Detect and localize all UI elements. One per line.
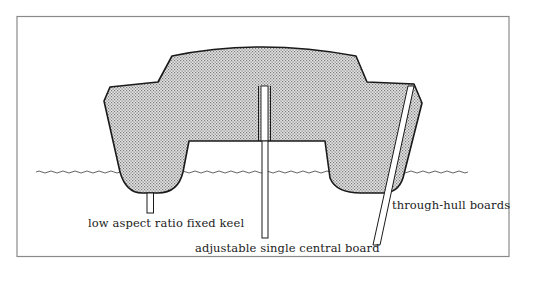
central-board <box>262 141 268 238</box>
diagram-canvas: low aspect ratio fixed keel adjustable s… <box>0 0 540 281</box>
fixed-keel <box>147 193 154 213</box>
label-through-hull-boards: through-hull boards <box>392 198 510 212</box>
label-central-board: adjustable single central board <box>195 241 380 255</box>
label-fixed-keel: low aspect ratio fixed keel <box>88 216 244 230</box>
catamaran-diagram <box>0 0 540 281</box>
